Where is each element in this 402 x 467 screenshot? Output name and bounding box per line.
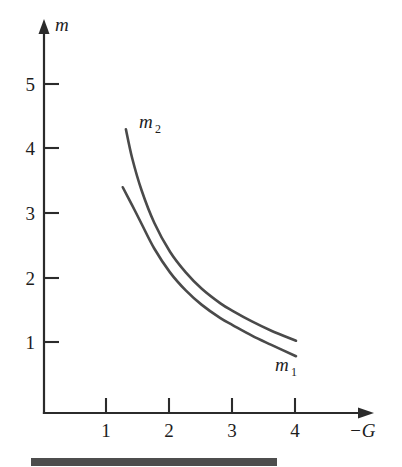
footer-rule-bar xyxy=(31,458,277,466)
y-tick-label-1: 1 xyxy=(26,332,36,353)
y-tick-marks xyxy=(44,84,59,342)
x-tick-label-3: 3 xyxy=(227,420,237,441)
y-axis-group xyxy=(39,19,50,413)
y-tick-label-4: 4 xyxy=(26,138,36,159)
x-tick-labels: 1 2 3 4 xyxy=(101,420,300,441)
y-tick-label-2: 2 xyxy=(26,268,36,289)
curve-label-m2-subscript: 2 xyxy=(155,122,161,136)
curve-m2 xyxy=(126,129,296,341)
y-axis-title: m xyxy=(55,14,69,35)
chart-canvas: 5 4 3 2 1 1 2 3 4 m −G m xyxy=(0,0,402,467)
x-tick-label-1: 1 xyxy=(101,420,111,441)
curve-label-m1-subscript: 1 xyxy=(291,365,297,379)
x-axis-group xyxy=(44,408,374,419)
x-tick-marks xyxy=(106,398,295,413)
y-tick-labels: 5 4 3 2 1 xyxy=(26,74,36,353)
y-tick-label-5: 5 xyxy=(26,74,36,95)
y-axis-arrow-icon xyxy=(39,19,50,34)
curves-group xyxy=(123,129,296,356)
y-tick-label-3: 3 xyxy=(26,203,36,224)
curve-annotation-m1: m 1 xyxy=(275,354,297,379)
curve-label-m2: m xyxy=(139,111,153,132)
x-axis-title: −G xyxy=(349,420,376,441)
x-tick-label-2: 2 xyxy=(164,420,174,441)
x-axis-arrow-icon xyxy=(358,408,374,419)
x-tick-label-4: 4 xyxy=(290,420,300,441)
figure-container: 5 4 3 2 1 1 2 3 4 m −G m xyxy=(0,0,402,467)
curve-annotation-m2: m 2 xyxy=(139,111,161,136)
curve-label-m1: m xyxy=(275,354,289,375)
